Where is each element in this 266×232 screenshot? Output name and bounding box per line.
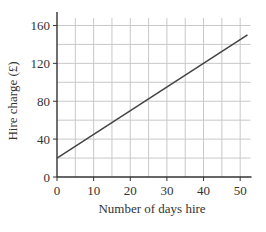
line-chart: 01020304050 04080120160 Number of days h… [0, 0, 266, 232]
y-tick-label: 160 [31, 18, 51, 33]
y-tick-label: 120 [31, 56, 51, 71]
y-axis-title: Hire charge (£) [5, 61, 20, 140]
x-tick-label: 20 [124, 183, 137, 198]
y-axis-ticks: 04080120160 [31, 18, 58, 185]
y-tick-label: 80 [37, 94, 50, 109]
x-tick-label: 10 [87, 183, 100, 198]
grid-lines [57, 18, 251, 177]
x-tick-label: 0 [54, 183, 61, 198]
y-tick-label: 0 [44, 170, 51, 185]
x-axis-title: Number of days hire [98, 201, 205, 216]
x-tick-label: 50 [234, 183, 247, 198]
y-tick-label: 40 [37, 132, 50, 147]
x-axis-ticks: 01020304050 [54, 177, 247, 198]
x-tick-label: 40 [197, 183, 210, 198]
x-tick-label: 30 [160, 183, 173, 198]
